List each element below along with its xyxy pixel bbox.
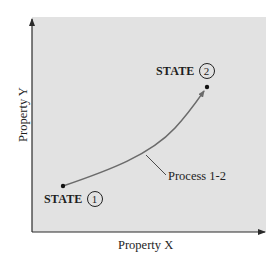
state-2-number-circle: 2 <box>199 63 215 79</box>
x-axis-label: Property X <box>118 238 173 253</box>
state-2-text: STATE <box>156 64 195 78</box>
state-1-number-circle: 1 <box>87 191 103 207</box>
state-1-point <box>61 184 65 188</box>
state-1-label: STATE1 <box>44 192 103 208</box>
process-label: Process 1-2 <box>168 169 226 184</box>
state-1-text: STATE <box>44 192 83 206</box>
process-diagram: STATE2 STATE1 Process 1-2 Property X Pro… <box>0 0 280 262</box>
state-2-point <box>205 85 209 89</box>
y-axis-label: Property Y <box>16 80 31 150</box>
state-2-label: STATE2 <box>156 64 215 80</box>
diagram-canvas <box>0 0 280 262</box>
